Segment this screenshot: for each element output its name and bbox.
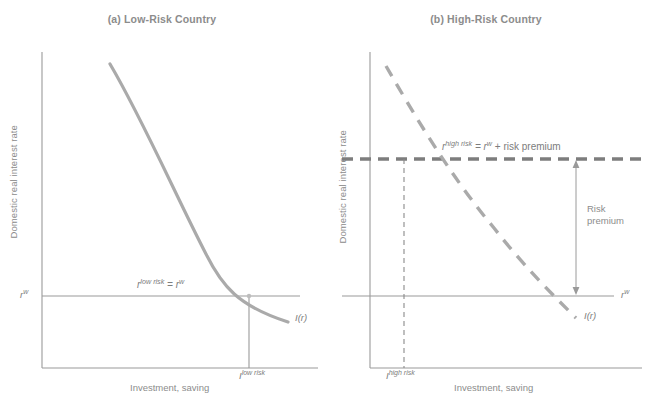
panel-a-investment-tick: Ilow risk	[239, 369, 265, 381]
panel-b-x-axis-label: Investment, saving	[454, 382, 533, 393]
panel-a-x-axis-label: Investment, saving	[130, 382, 209, 393]
panel-b-risk-premium-arrow-head-down	[573, 287, 580, 295]
panel-b-risk-premium-arrow-head-up	[573, 160, 580, 168]
panel-b-curve-label: I(r)	[584, 310, 596, 321]
panel-b-plot	[324, 0, 648, 402]
panel-low-risk: (a) Low-Risk Country Domestic real inter…	[0, 0, 324, 402]
panel-b-risk-premium-label: Riskpremium	[587, 203, 624, 227]
panel-b-investment-tick: Ihigh risk	[386, 369, 415, 381]
figure-canvas: (a) Low-Risk Country Domestic real inter…	[0, 0, 648, 402]
panel-b-rate-equation: rhigh risk = rw + risk premium	[442, 139, 561, 152]
panel-a-curve-label: I(r)	[295, 312, 307, 323]
panel-a-rate-equation: rlow risk = rw	[137, 277, 184, 290]
panel-b-world-rate-tick: rw	[621, 288, 629, 300]
panel-a-equilibrium-point	[247, 294, 251, 298]
panel-high-risk: (b) High-Risk Country Domestic real inte…	[324, 0, 648, 402]
panel-b-investment-curve	[386, 66, 576, 318]
panel-a-world-rate-tick: rw	[20, 288, 28, 300]
panel-a-plot	[0, 0, 324, 402]
